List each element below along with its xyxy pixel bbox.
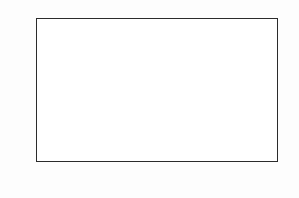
plot-frame: [36, 18, 278, 162]
histogram-plot: [37, 19, 279, 163]
figure-root: [0, 0, 299, 198]
